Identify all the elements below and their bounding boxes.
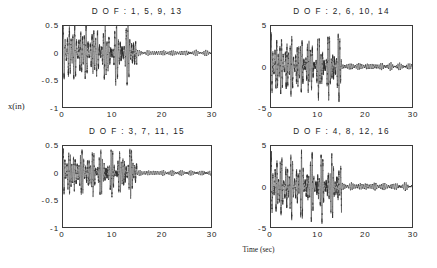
xtick-label: 30: [408, 230, 419, 239]
figure-xlabel: Time (sec): [0, 245, 437, 254]
panel-top-left: D O F : 1, 5, 9, 13 0.5 0 -0.5 -1 0 10 2…: [62, 25, 212, 108]
ytick-label: -5: [258, 104, 267, 113]
ytick-label: 0.5: [45, 21, 59, 30]
waveform-bottom-left: [63, 146, 211, 227]
xtick-label: 10: [312, 230, 323, 239]
panel-top-right: D O F : 2, 6, 10, 14 5 0 -5 0 10 20 30: [270, 25, 413, 108]
xtick-label: 20: [360, 110, 371, 119]
plot-area-top-right: [270, 25, 413, 108]
xtick-label: 30: [408, 110, 419, 119]
ytick-label: -1: [50, 104, 59, 113]
xtick-label: 20: [157, 110, 168, 119]
ytick-label: 0: [54, 48, 59, 57]
xtick-label: 20: [360, 230, 371, 239]
xtick-label: 0: [267, 230, 272, 239]
ytick-label: -0.5: [42, 76, 59, 85]
ytick-label: 0: [262, 182, 267, 191]
ytick-label: 0: [54, 168, 59, 177]
xtick-label: 30: [207, 110, 218, 119]
ytick-label: -5: [258, 224, 267, 233]
ytick-label: 5: [262, 21, 267, 30]
panel-title-top-left: D O F : 1, 5, 9, 13: [62, 7, 212, 16]
panel-title-top-right: D O F : 2, 6, 10, 14: [270, 7, 413, 16]
waveform-bottom-right: [271, 146, 412, 227]
panel-bottom-left: D O F : 3, 7, 11, 15 0.5 0 -0.5 -1 0 10 …: [62, 145, 212, 228]
xtick-label: 10: [312, 110, 323, 119]
ytick-label: 0: [262, 62, 267, 71]
panel-title-bottom-left: D O F : 3, 7, 11, 15: [62, 127, 212, 136]
plot-area-top-left: [62, 25, 212, 108]
xtick-label: 0: [267, 110, 272, 119]
xtick-label: 0: [59, 230, 64, 239]
signal-trace: [271, 150, 412, 224]
xtick-label: 10: [107, 110, 118, 119]
waveform-top-right: [271, 26, 412, 107]
signal-trace: [63, 26, 211, 86]
xtick-label: 20: [157, 230, 168, 239]
panel-title-bottom-right: D O F : 4, 8, 12, 16: [270, 127, 413, 136]
ytick-label: 0.5: [45, 141, 59, 150]
xtick-label: 10: [107, 230, 118, 239]
xtick-label: 30: [207, 230, 218, 239]
ytick-label: -1: [50, 224, 59, 233]
waveform-top-left: [63, 26, 211, 107]
plot-area-bottom-right: [270, 145, 413, 228]
xtick-label: 0: [59, 110, 64, 119]
panel-bottom-right: D O F : 4, 8, 12, 16 5 0 -5 0 10 20 30: [270, 145, 413, 228]
ytick-label: -0.5: [42, 196, 59, 205]
figure-canvas: D O F : 1, 5, 9, 13 0.5 0 -0.5 -1 0 10 2…: [0, 0, 437, 268]
signal-trace: [63, 148, 211, 199]
signal-trace: [271, 32, 412, 102]
figure-ylabel: x(in): [8, 101, 25, 111]
plot-area-bottom-left: [62, 145, 212, 228]
ytick-label: 5: [262, 141, 267, 150]
